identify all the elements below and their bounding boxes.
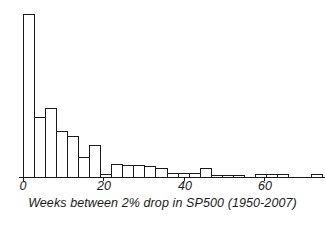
x-tick-label-20: 20 (97, 179, 111, 193)
x-tick-label-40: 40 (178, 179, 192, 193)
histogram-bar (178, 173, 189, 177)
histogram-bar (78, 157, 89, 177)
histogram-bar (145, 166, 156, 177)
histogram-bar (134, 165, 145, 177)
histogram-plot-area (0, 0, 325, 200)
histogram-bar (90, 145, 101, 177)
x-axis-ticks (23, 177, 265, 181)
x-tick-label-0: 0 (20, 179, 27, 193)
histogram-bar (45, 108, 56, 177)
histogram-bar (112, 164, 123, 177)
histogram-bar (56, 131, 67, 177)
histogram-bar (167, 173, 178, 177)
histogram-bar (200, 168, 211, 177)
histogram-svg (0, 0, 325, 200)
x-tick-label-60: 60 (258, 179, 272, 193)
histogram-bar (34, 117, 45, 177)
histogram-bar (156, 168, 167, 177)
histogram-figure: 0 20 40 60 Weeks between 2% drop in SP50… (0, 0, 325, 228)
histogram-bar (23, 14, 34, 177)
histogram-bar (67, 136, 78, 177)
histogram-bars (23, 14, 322, 177)
histogram-bar (189, 173, 200, 177)
histogram-bar (123, 165, 134, 177)
figure-caption: Weeks between 2% drop in SP500 (1950-200… (0, 196, 325, 210)
